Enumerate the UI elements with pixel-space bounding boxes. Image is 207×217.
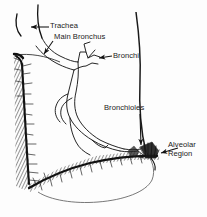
label-bronchioles: Bronchioles	[104, 104, 144, 113]
label-bronchi: Bronchi	[113, 52, 139, 61]
arrow-bronchi	[99, 56, 112, 58]
label-main-bronchus: Main Bronchus	[54, 33, 105, 42]
label-trachea: Trachea	[50, 22, 78, 31]
diaphragm	[20, 148, 165, 198]
lung-anatomy-figure: Trachea Main Bronchus Bronchi Bronchiole…	[0, 0, 207, 217]
label-alveolar-region: Alveolar Region	[168, 141, 207, 158]
pleural-surface	[10, 50, 39, 195]
label-alveolar-region-line2: Region	[168, 150, 207, 159]
main-bronchus	[36, 38, 78, 70]
trachea	[16, 5, 42, 38]
